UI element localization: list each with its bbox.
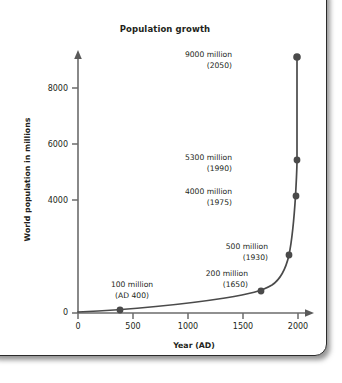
annotation-year: (2050) [160,61,232,72]
data-point-ad400 [117,307,124,314]
annotation-label: 100 million [111,280,153,289]
data-point-1650 [258,288,265,295]
annotation-label: 200 million [206,269,248,278]
y-tick-label-6000: 6000 [28,140,68,149]
annotation-label: 9000 million [185,50,232,59]
x-tick-label-1000: 1000 [168,322,208,331]
x-tick-label-2000: 2000 [278,322,318,331]
y-tick-label-4000: 4000 [28,196,68,205]
data-point-1975 [293,193,300,200]
x-axis-arrowhead [305,309,314,317]
annotation-9000-million: 9000 million (2050) [160,50,232,71]
data-point-2050 [293,53,301,61]
annotation-5300-million: 5300 million (1990) [160,153,232,174]
annotation-year: (1975) [160,198,232,209]
y-tick-label-0: 0 [28,308,68,317]
x-axis-title: Year (AD) [78,341,310,350]
annotation-label: 500 million [226,242,268,251]
y-axis-arrowhead [74,50,82,59]
annotation-year: (1990) [160,164,232,175]
annotation-label: 5300 million [185,153,232,162]
x-tick-label-500: 500 [113,322,153,331]
x-tick-label-1500: 1500 [223,322,263,331]
chart-title: Population growth [0,24,330,34]
annotation-200-million: 200 million (1650) [176,269,248,290]
y-tick-label-8000: 8000 [28,84,68,93]
annotation-label: 4000 million [185,187,232,196]
y-axis-title: World population in millions [23,110,32,250]
annotation-year: (1650) [176,280,248,291]
annotation-year: (AD 400) [96,291,168,302]
data-point-1990 [294,157,301,164]
annotation-year: (1930) [196,253,268,264]
population-growth-chart: Population growth World population in mi… [0,0,342,383]
annotation-500-million: 500 million (1930) [196,242,268,263]
annotation-100-million: 100 million (AD 400) [96,280,168,301]
x-tick-label-0: 0 [58,322,98,331]
annotation-4000-million: 4000 million (1975) [160,187,232,208]
data-point-1930 [286,252,293,259]
